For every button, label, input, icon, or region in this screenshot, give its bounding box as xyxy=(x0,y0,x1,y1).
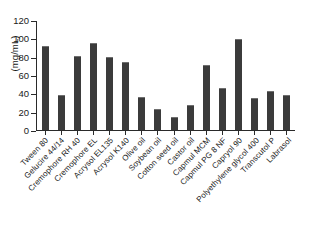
x-tick-slot xyxy=(214,131,230,135)
x-tick-slot xyxy=(198,131,214,135)
x-tick-slot xyxy=(263,131,279,135)
x-tick-slot xyxy=(166,131,182,135)
bar xyxy=(219,88,226,130)
bar xyxy=(42,46,49,130)
bar-slot xyxy=(166,21,182,130)
bar xyxy=(122,62,129,130)
bar xyxy=(251,98,258,130)
y-tick-mark xyxy=(31,21,36,22)
bar xyxy=(187,105,194,130)
x-tick-slot xyxy=(150,131,166,135)
bar xyxy=(267,91,274,130)
x-tick-mark xyxy=(93,131,94,135)
x-tick-mark xyxy=(174,131,175,135)
bar-slot xyxy=(263,21,279,130)
x-tick-slot xyxy=(118,131,134,135)
bar-slot xyxy=(102,21,118,130)
bar-series xyxy=(37,21,295,130)
bar xyxy=(90,43,97,130)
bar-slot xyxy=(182,21,198,130)
x-tick-slot xyxy=(37,131,53,135)
bar xyxy=(74,56,81,130)
bar-slot xyxy=(247,21,263,130)
y-tick-label: 100 xyxy=(13,35,29,45)
bar xyxy=(106,57,113,130)
x-axis-category-labels: Tween 80Gelucire 44/14Cremophore RH 40Cr… xyxy=(37,137,296,237)
y-tick-mark xyxy=(31,76,36,77)
x-tick-mark xyxy=(206,131,207,135)
bar-slot xyxy=(37,21,53,130)
x-tick-mark xyxy=(125,131,126,135)
x-tick-slot xyxy=(247,131,263,135)
y-tick-mark xyxy=(31,131,36,132)
y-tick-mark xyxy=(31,113,36,114)
bar xyxy=(58,95,65,130)
bar-chart: (mg/mL) 020406080100120 Tween 80Gelucire… xyxy=(0,0,309,240)
bar-slot xyxy=(231,21,247,130)
x-tick-mark xyxy=(254,131,255,135)
bar-slot xyxy=(279,21,295,130)
x-tick-mark xyxy=(190,131,191,135)
y-tick-label: 80 xyxy=(18,53,29,63)
x-tick-mark xyxy=(77,131,78,135)
bar xyxy=(154,109,161,130)
x-tick-mark xyxy=(141,131,142,135)
x-tick-slot xyxy=(53,131,69,135)
bar xyxy=(283,95,290,130)
y-tick-label: 60 xyxy=(18,71,29,81)
x-tick-mark xyxy=(61,131,62,135)
y-tick-mark xyxy=(31,39,36,40)
y-tick-mark xyxy=(31,58,36,59)
bar-slot xyxy=(69,21,85,130)
x-tick-mark xyxy=(109,131,110,135)
bar-slot xyxy=(134,21,150,130)
bar xyxy=(203,65,210,130)
bar-slot xyxy=(53,21,69,130)
bar-slot xyxy=(85,21,101,130)
x-tick-slot xyxy=(69,131,85,135)
bar xyxy=(138,97,145,130)
y-tick-label: 40 xyxy=(18,90,29,100)
bar xyxy=(235,39,242,130)
y-tick-label: 0 xyxy=(24,126,29,136)
x-tick-slot xyxy=(134,131,150,135)
x-tick-mark xyxy=(157,131,158,135)
y-tick-label: 20 xyxy=(18,108,29,118)
bar-slot xyxy=(150,21,166,130)
x-tick-mark xyxy=(222,131,223,135)
x-label-slot: Labrasol xyxy=(280,137,296,237)
x-tick-slot xyxy=(85,131,101,135)
y-tick-mark xyxy=(31,94,36,95)
bar-slot xyxy=(118,21,134,130)
x-tick-mark xyxy=(45,131,46,135)
x-tick-mark xyxy=(238,131,239,135)
x-axis-ticks xyxy=(37,131,295,135)
x-tick-slot xyxy=(102,131,118,135)
bar xyxy=(171,117,178,130)
x-tick-slot xyxy=(182,131,198,135)
x-tick-mark xyxy=(270,131,271,135)
x-tick-slot xyxy=(231,131,247,135)
bar-slot xyxy=(198,21,214,130)
y-tick-label: 120 xyxy=(13,16,29,26)
bar-slot xyxy=(214,21,230,130)
plot-area: 020406080100120 xyxy=(36,21,295,131)
